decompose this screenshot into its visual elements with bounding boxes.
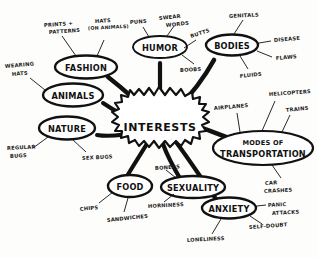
node-fashion[interactable]: FASHION — [55, 56, 117, 79]
transportation-ellipse — [213, 131, 313, 165]
leaf-wearing-hats-line1: WEARING — [5, 60, 35, 69]
leaf-line-panic-attacks — [257, 205, 266, 206]
node-transportation[interactable]: MODES OF TRANSPORTATION — [213, 131, 313, 165]
anxiety-label: ANXIETY — [208, 204, 250, 214]
fashion-label: FASHION — [65, 63, 107, 73]
leaf-puns: PUNS — [130, 18, 147, 25]
humor-label: HUMOR — [142, 43, 178, 53]
leaf-line-puns — [143, 27, 149, 37]
leaf-fluids: FLUIDS — [239, 71, 262, 79]
leaf-line-disease — [259, 41, 271, 43]
leaf-loneliness: LONELINESS — [187, 235, 225, 243]
leaf-regular-bugs-line1: REGULAR — [7, 144, 36, 151]
center-node[interactable]: INTERESTS — [112, 87, 209, 148]
transportation-label-line2: TRANSPORTATION — [220, 149, 306, 159]
leaf-flaws: FLAWS — [276, 53, 298, 61]
leaf-butts: BUTTS — [189, 27, 210, 39]
mind-map-canvas: INTERESTS FASHION PRINTS + PATTERNS HATS… — [0, 0, 317, 258]
leaf-line-boobs — [182, 55, 194, 64]
leaf-car-crashes-line2: CRASHES — [264, 187, 293, 194]
leaf-line-sandwiches — [124, 198, 128, 212]
leaf-wearing-hats-line2: HATS — [12, 70, 29, 77]
center-label: INTERESTS — [123, 121, 196, 134]
animals-label: ANIMALS — [51, 91, 94, 101]
leaf-trains: TRAINS — [285, 105, 308, 113]
leaf-swear-words-line2: WORDS — [165, 20, 189, 28]
leaf-line-prints-patterns — [62, 36, 76, 56]
node-anxiety[interactable]: ANXIETY — [202, 198, 256, 219]
leaf-line-car-crashes — [272, 165, 281, 178]
leaf-prints-patterns-line2: PATTERNS — [49, 27, 81, 35]
node-sexuality[interactable]: SEXUALITY — [161, 176, 225, 198]
leaf-sex-bugs: SEX BUGS — [82, 153, 113, 161]
leaf-self-doubt: SELF-DOUBT — [249, 221, 288, 230]
leaf-panic-attacks-line1: PANIC — [268, 201, 287, 208]
leaf-line-helicopters — [262, 101, 275, 131]
node-humor[interactable]: HUMOR — [133, 36, 187, 58]
leaf-regular-bugs-line2: BUGS — [10, 152, 27, 159]
leaf-line-airplanes — [237, 113, 240, 132]
leaf-helicopters: HELICOPTERS — [269, 88, 312, 97]
leaf-swear-words-line1: SWEAR — [158, 13, 181, 21]
transportation-label-line1: MODES OF — [243, 139, 284, 147]
leaf-line-hats-on-animals — [97, 40, 104, 56]
node-food[interactable]: FOOD — [108, 175, 152, 197]
leaf-hats-on-animals-line2: (ON ANIMALS) — [88, 24, 129, 31]
bodies-label: BODIES — [214, 41, 250, 51]
leaf-line-wearing-hats — [30, 78, 45, 90]
leaf-line-loneliness — [212, 219, 221, 234]
leaf-hats-on-animals-line1: HATS — [95, 17, 111, 24]
leaf-line-sex-bugs — [73, 140, 86, 152]
node-bodies[interactable]: BODIES — [206, 35, 258, 56]
leaf-line-fluids — [240, 56, 248, 69]
leaf-chips: CHIPS — [79, 204, 98, 212]
node-animals[interactable]: ANIMALS — [43, 84, 103, 107]
leaf-horniness: HORNINESS — [148, 201, 184, 209]
leaf-car-crashes-line1: CAR — [265, 179, 278, 186]
sexuality-label: SEXUALITY — [167, 183, 220, 193]
leaf-line-flaws — [257, 51, 272, 57]
leaf-genitals: GENITALS — [229, 11, 259, 19]
leaf-panic-attacks-line2: ATTACKS — [272, 209, 300, 216]
leaf-airplanes: AIRPLANES — [214, 102, 249, 111]
leaf-line-trains — [282, 115, 290, 132]
leaf-boobs: BOOBS — [180, 66, 202, 73]
branch-to-food — [126, 142, 148, 178]
leaf-line-chips — [99, 192, 113, 203]
fashion-leaves — [62, 36, 104, 56]
nature-label: NATURE — [48, 124, 86, 134]
leaf-disease: DISEASE — [274, 35, 301, 43]
leaf-sandwiches: SANDWICHES — [106, 213, 148, 223]
starburst-shape — [112, 87, 209, 148]
food-label: FOOD — [116, 182, 143, 192]
leaf-line-genitals — [234, 20, 243, 34]
node-nature[interactable]: NATURE — [39, 117, 95, 140]
